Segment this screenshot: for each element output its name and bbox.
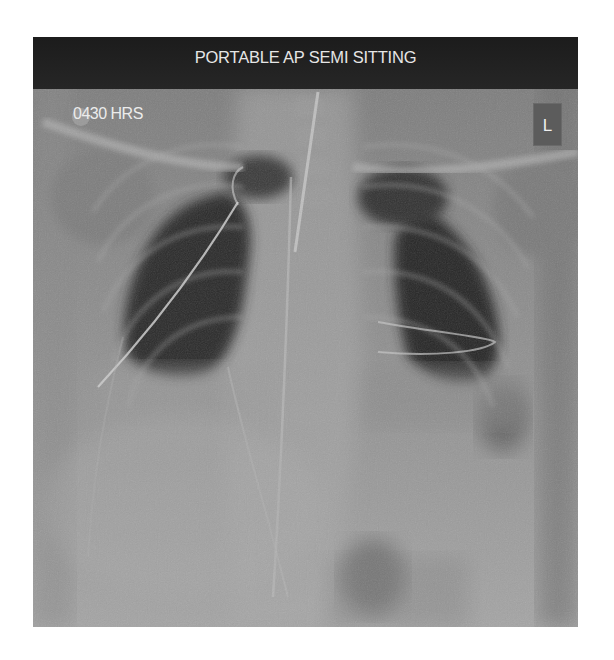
xray-film (33, 37, 578, 627)
chest-xray-image: PORTABLE AP SEMI SITTING 0430 HRS L (33, 37, 578, 627)
time-label: 0430 HRS (73, 105, 143, 123)
side-marker: L (533, 103, 562, 146)
projection-label: PORTABLE AP SEMI SITTING (33, 48, 578, 67)
